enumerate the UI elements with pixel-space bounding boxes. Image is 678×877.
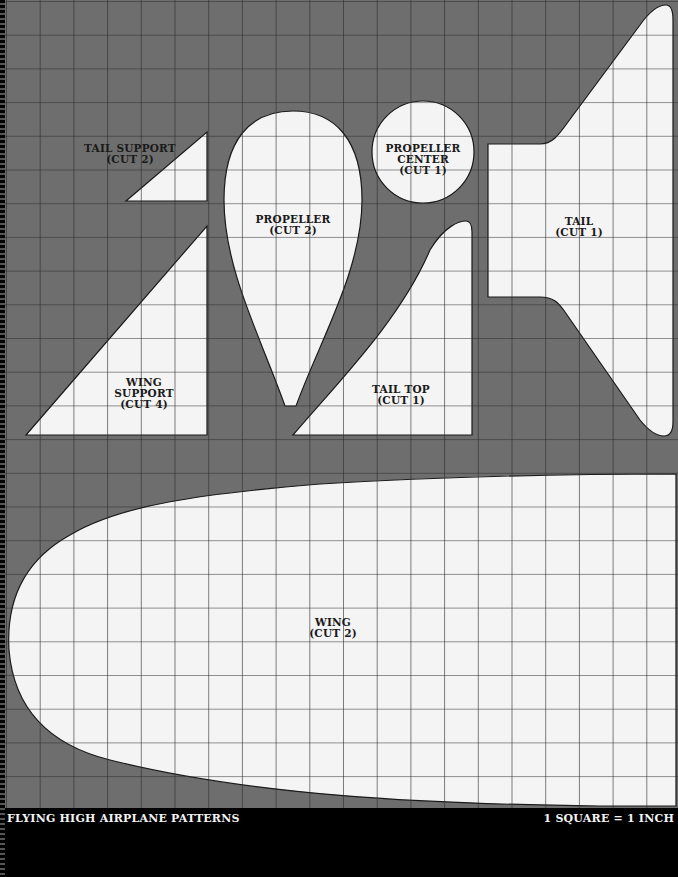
wing-support-label: WING SUPPORT (CUT 4): [114, 377, 173, 410]
pattern-canvas: [0, 0, 678, 877]
scale-note: 1 SQUARE = 1 INCH: [544, 812, 674, 825]
grid-lines: [0, 0, 678, 808]
propeller-center-label: PROPELLER CENTER (CUT 1): [386, 143, 461, 176]
wing-label: WING (CUT 2): [309, 617, 357, 639]
pattern-sheet: TAIL SUPPORT (CUT 2) PROPELLER (CUT 2) P…: [0, 0, 678, 877]
tail-support-label: TAIL SUPPORT (CUT 2): [84, 143, 176, 165]
tail-top-cut: (CUT 1): [372, 395, 430, 406]
propeller-label: PROPELLER (CUT 2): [256, 214, 331, 236]
tail-cut: (CUT 1): [555, 227, 603, 238]
tail-support-cut: (CUT 2): [84, 154, 176, 165]
sheet-left-edge: [0, 0, 5, 877]
tail-label: TAIL (CUT 1): [555, 216, 603, 238]
propeller-cut: (CUT 2): [256, 225, 331, 236]
wing-support-cut: (CUT 4): [114, 399, 173, 410]
tail-top-label: TAIL TOP (CUT 1): [372, 384, 430, 406]
wing-cut: (CUT 2): [309, 628, 357, 639]
propeller-center-cut: (CUT 1): [386, 165, 461, 176]
document-title: FLYING HIGH AIRPLANE PATTERNS: [7, 812, 240, 825]
